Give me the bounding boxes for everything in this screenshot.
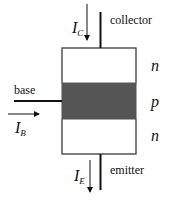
layer-label-n-top: n [151, 58, 159, 74]
collector-label: collector [110, 14, 152, 26]
collector-current-label: IC [72, 20, 83, 38]
base-current-label: IB [15, 120, 26, 138]
transistor-diagram [0, 0, 171, 202]
emitter-label: emitter [110, 164, 144, 176]
layer-p [62, 83, 136, 119]
layer-label-n-bottom: n [151, 128, 159, 144]
base-label: base [14, 84, 35, 96]
layer-label-p: p [151, 94, 159, 110]
emitter-current-label: IE [74, 168, 85, 186]
layer-n-bottom [62, 119, 136, 154]
layer-n-top [62, 48, 136, 83]
